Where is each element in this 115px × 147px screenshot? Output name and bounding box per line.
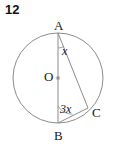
vertex-label-b: B [54,129,63,142]
problem-figure-page: 12 A B C O x 3x [0,0,115,147]
center-point-marker [57,77,60,80]
center-label-o: O [44,70,53,83]
vertex-label-c: C [92,106,101,119]
angle-label-3x: 3x [60,103,71,115]
vertex-label-a: A [54,19,63,32]
angle-label-x: x [62,45,67,57]
